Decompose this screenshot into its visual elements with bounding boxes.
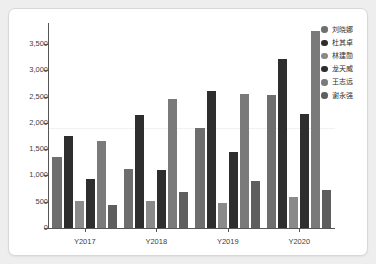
- legend-color-dot-icon: [321, 79, 328, 86]
- x-tick-mark: [156, 228, 157, 232]
- bar[interactable]: [64, 136, 73, 228]
- bar[interactable]: [289, 197, 298, 228]
- x-tick-mark: [228, 228, 229, 232]
- legend-item[interactable]: 龙天威: [321, 63, 367, 76]
- legend-item-label: 谢永强: [332, 92, 353, 100]
- y-tick: 0: [9, 228, 48, 229]
- bar[interactable]: [229, 152, 238, 228]
- bar[interactable]: [300, 114, 309, 228]
- bar[interactable]: [86, 179, 95, 228]
- legend-item[interactable]: 王志远: [321, 76, 367, 89]
- legend-item[interactable]: 林建勋: [321, 49, 367, 62]
- x-group-label-y2017: Y2017: [74, 237, 96, 246]
- legend-item[interactable]: 刘晓娜: [321, 23, 367, 36]
- bars-layer: [9, 9, 369, 228]
- legend-item[interactable]: 杜其卓: [321, 36, 367, 49]
- chart-card: 05001,0001,5002,0002,5003,0003,500 Y2017…: [8, 8, 368, 256]
- x-tick-mark: [299, 228, 300, 232]
- bar[interactable]: [108, 205, 117, 228]
- bar[interactable]: [179, 192, 188, 228]
- bar[interactable]: [278, 59, 287, 228]
- legend-color-dot-icon: [321, 26, 328, 33]
- bar[interactable]: [75, 201, 84, 228]
- bar[interactable]: [240, 94, 249, 228]
- bar[interactable]: [124, 169, 133, 228]
- x-group-label-y2020: Y2020: [288, 237, 310, 246]
- bar[interactable]: [97, 141, 106, 228]
- bar[interactable]: [218, 203, 227, 228]
- x-axis-line: [48, 228, 335, 229]
- legend-color-dot-icon: [321, 40, 328, 47]
- bar[interactable]: [146, 201, 155, 228]
- bar-chart: 05001,0001,5002,0002,5003,0003,500 Y2017…: [9, 9, 369, 257]
- legend-color-dot-icon: [321, 53, 328, 60]
- bar[interactable]: [207, 91, 216, 228]
- bar[interactable]: [52, 157, 61, 228]
- bar[interactable]: [195, 128, 204, 228]
- x-group-label-y2019: Y2019: [217, 237, 239, 246]
- bar[interactable]: [311, 31, 320, 228]
- bar[interactable]: [135, 115, 144, 228]
- legend-color-dot-icon: [321, 92, 328, 99]
- x-tick-mark: [85, 228, 86, 232]
- bar[interactable]: [322, 190, 331, 228]
- legend-item-label: 龙天威: [332, 65, 353, 73]
- legend-item[interactable]: 谢永强: [321, 89, 367, 102]
- bar[interactable]: [157, 170, 166, 228]
- legend-item-label: 王志远: [332, 78, 353, 86]
- legend-color-dot-icon: [321, 66, 328, 73]
- bar[interactable]: [168, 99, 177, 228]
- legend: 刘晓娜杜其卓林建勋龙天威王志远谢永强: [321, 23, 367, 102]
- bar[interactable]: [251, 181, 260, 228]
- legend-item-label: 刘晓娜: [332, 26, 353, 34]
- legend-item-label: 杜其卓: [332, 39, 353, 47]
- legend-item-label: 林建勋: [332, 52, 353, 60]
- bar[interactable]: [267, 95, 276, 228]
- x-group-label-y2018: Y2018: [145, 237, 167, 246]
